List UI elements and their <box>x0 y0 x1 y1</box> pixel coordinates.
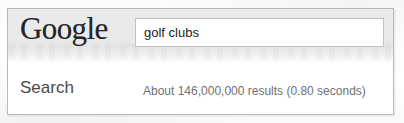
google-search-widget: Google Search About 146,000,000 results … <box>7 8 394 115</box>
google-logo[interactable]: Google <box>20 12 108 46</box>
search-header-bar: Google <box>8 9 393 63</box>
result-stats-text: About 146,000,000 results (0.80 seconds) <box>143 84 366 98</box>
search-results-body: Search About 146,000,000 results (0.80 s… <box>8 63 393 114</box>
search-section-label: Search <box>20 78 74 98</box>
scanned-page-canvas: Google Search About 146,000,000 results … <box>0 0 404 123</box>
search-input[interactable] <box>135 18 384 47</box>
scan-ghost-texture-band <box>8 45 393 59</box>
